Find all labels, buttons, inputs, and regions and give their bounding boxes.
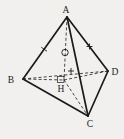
dashed-segment-AH [64,17,67,80]
geometry-figure: ABCDH [0,0,124,139]
tetrahedron-svg: ABCDH [0,0,124,139]
dashed-segment-BD [23,71,108,79]
vertex-label-D: D [112,67,119,77]
vertex-label-H: H [58,84,65,94]
right-angle-marker [58,77,65,83]
edge-BC [23,79,88,116]
vertex-label-B: B [8,75,14,85]
edge-AB [23,17,67,79]
edge-CD [88,71,108,116]
vertex-label-C: C [87,119,93,129]
vertex-label-A: A [63,5,70,15]
